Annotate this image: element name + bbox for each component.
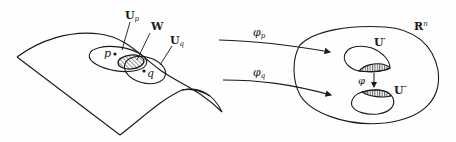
label-q: q bbox=[147, 67, 154, 80]
point-q bbox=[142, 69, 145, 72]
W-overlap-region bbox=[117, 54, 144, 70]
label-Rn: Rn bbox=[414, 20, 428, 33]
Uprime-hatched bbox=[359, 64, 390, 72]
label-Udprime: U″ bbox=[394, 83, 408, 97]
label-phi-q: φq bbox=[253, 66, 266, 80]
label-p: p bbox=[104, 47, 111, 60]
label-W: W bbox=[150, 20, 164, 33]
phi-p-arrow bbox=[219, 40, 330, 52]
label-phi-p: φp bbox=[253, 26, 266, 40]
phi-q-arrow bbox=[223, 80, 331, 95]
point-p bbox=[113, 52, 116, 55]
manifold-surface bbox=[17, 33, 222, 135]
label-Up: Up bbox=[125, 9, 140, 23]
Rn-region bbox=[294, 27, 439, 124]
Udprime-hatched bbox=[362, 90, 391, 97]
label-Uprime: U′ bbox=[374, 35, 386, 49]
label-phi: φ bbox=[358, 75, 365, 86]
coordinate-charts-diagram: Up W Uq p q φp φq Rn U′ U″ φ bbox=[0, 0, 456, 142]
label-Uq: Uq bbox=[170, 34, 185, 48]
